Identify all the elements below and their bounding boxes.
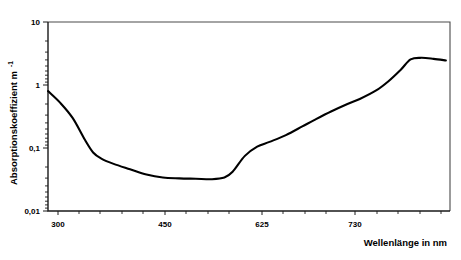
y-axis-title: Absorptionskoeffizient m-1 [7,61,19,185]
y-tick-label-10: 10 [31,18,40,27]
y-tick-label-1: 1 [36,81,41,90]
y-axis-title-text: Absorptionskoeffizient m [8,71,19,185]
x-tick-label-450: 450 [158,220,172,229]
svg-text:Absorptionskoeffizient m-1: Absorptionskoeffizient m-1 [7,61,19,185]
plot-area-background [48,22,450,211]
x-tick-label-625: 625 [255,220,269,229]
absorption-spectrum-chart: 10 1 0,1 0,01 300 450 625 730 Absorption… [0,0,461,260]
x-tick-label-300: 300 [51,220,65,229]
y-axis-ticks [43,22,48,211]
x-axis-title: Wellenlänge in nm [364,237,447,248]
chart-figure: 10 1 0,1 0,01 300 450 625 730 Absorption… [0,0,461,260]
x-tick-label-730: 730 [348,220,362,229]
y-tick-label-0-1: 0,1 [29,144,41,153]
y-tick-label-0-01: 0,01 [24,207,40,216]
y-axis-title-exponent: -1 [7,61,14,67]
